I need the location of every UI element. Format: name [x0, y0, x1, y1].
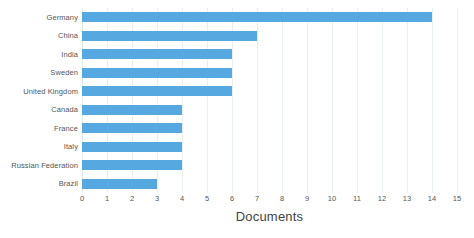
bar-germany[interactable]	[82, 12, 432, 22]
category-axis: GermanyChinaIndiaSwedenUnited KingdomCan…	[0, 8, 78, 193]
category-label-china: China	[58, 27, 78, 46]
bar-france[interactable]	[82, 123, 182, 133]
bar-row	[82, 64, 457, 83]
x-tick-label-5: 5	[205, 194, 209, 203]
x-tick-label-15: 15	[453, 194, 461, 203]
x-tick-label-2: 2	[130, 194, 134, 203]
bar-row	[82, 156, 457, 175]
bar-italy[interactable]	[82, 142, 182, 152]
category-label-france: France	[54, 119, 78, 138]
bar-row	[82, 175, 457, 194]
x-tick-label-4: 4	[180, 194, 184, 203]
bar-united-kingdom[interactable]	[82, 86, 232, 96]
gridline-15	[457, 8, 458, 193]
bar-india[interactable]	[82, 49, 232, 59]
x-tick-label-12: 12	[378, 194, 386, 203]
x-tick-label-1: 1	[105, 194, 109, 203]
bar-row	[82, 8, 457, 27]
x-tick-label-11: 11	[353, 194, 361, 203]
bar-row	[82, 119, 457, 138]
category-label-germany: Germany	[46, 8, 78, 27]
category-label-united-kingdom: United Kingdom	[23, 82, 78, 101]
category-label-brazil: Brazil	[59, 175, 78, 194]
bar-brazil[interactable]	[82, 179, 157, 189]
category-label-canada: Canada	[51, 101, 78, 120]
bar-row	[82, 45, 457, 64]
x-tick-label-9: 9	[305, 194, 309, 203]
bar-row	[82, 101, 457, 120]
x-tick-label-0: 0	[80, 194, 84, 203]
x-tick-label-6: 6	[230, 194, 234, 203]
bar-chart: GermanyChinaIndiaSwedenUnited KingdomCan…	[0, 0, 474, 238]
bar-row	[82, 27, 457, 46]
x-axis-ticks: 0123456789101112131415	[82, 194, 457, 208]
bar-canada[interactable]	[82, 105, 182, 115]
category-label-sweden: Sweden	[50, 64, 78, 83]
x-tick-label-13: 13	[403, 194, 411, 203]
bar-row	[82, 82, 457, 101]
x-tick-label-7: 7	[255, 194, 259, 203]
x-tick-label-3: 3	[155, 194, 159, 203]
x-tick-label-10: 10	[328, 194, 336, 203]
x-axis-title: Documents	[82, 209, 457, 224]
category-label-russian-federation: Russian Federation	[11, 156, 78, 175]
plot-area	[82, 8, 457, 193]
category-label-india: India	[61, 45, 78, 64]
bar-row	[82, 138, 457, 157]
x-tick-label-8: 8	[280, 194, 284, 203]
x-tick-label-14: 14	[428, 194, 436, 203]
bar-china[interactable]	[82, 31, 257, 41]
category-label-italy: Italy	[64, 138, 78, 157]
bar-russian-federation[interactable]	[82, 160, 182, 170]
bar-sweden[interactable]	[82, 68, 232, 78]
